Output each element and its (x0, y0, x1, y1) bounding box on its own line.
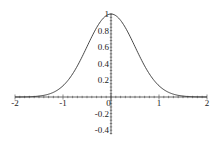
y-tick-label: -0.2 (95, 109, 109, 119)
x-tick-label: -1 (59, 98, 67, 108)
axes: -2-101210.80.60.40.2-0.2-0.4 (11, 9, 209, 135)
y-tick-label: 0.8 (98, 26, 110, 36)
y-tick-label: 0.6 (98, 42, 110, 52)
x-tick-label: 0 (106, 98, 111, 108)
y-tick-label: 1 (105, 9, 110, 19)
gaussian-plot: -2-101210.80.60.40.2-0.2-0.4 (0, 0, 217, 145)
y-tick-label: -0.4 (95, 125, 110, 135)
x-tick-label: 2 (205, 98, 210, 108)
x-tick-label: 1 (157, 98, 162, 108)
y-tick-label: 0.2 (98, 75, 109, 85)
x-tick-label: -2 (11, 98, 19, 108)
y-tick-label: 0.4 (98, 59, 110, 69)
